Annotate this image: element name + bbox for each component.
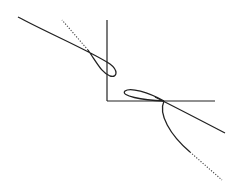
curve-diagram — [0, 0, 230, 184]
background — [0, 0, 230, 184]
